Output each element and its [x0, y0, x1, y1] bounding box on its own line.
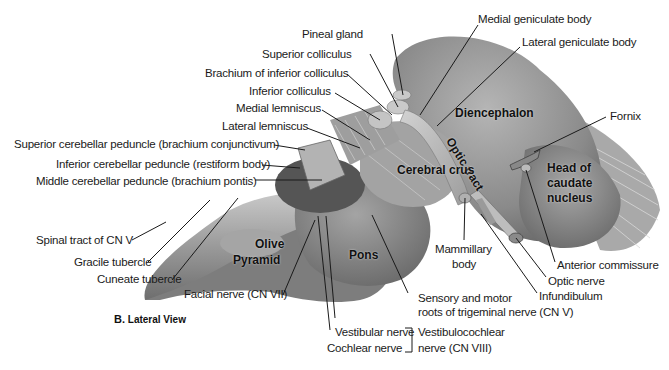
label-fornix: Fornix: [610, 110, 641, 123]
label-middle-cerebellar-peduncle: Middle cerebellar peduncle (brachium pon…: [36, 175, 257, 188]
label-vestibulocochlear-1: Vestibulocochlear: [418, 326, 505, 339]
label-cochlear-nerve: Cochlear nerve: [327, 342, 402, 355]
label-anterior-commissure: Anterior commissure: [557, 259, 659, 272]
label-olive: Olive: [255, 237, 284, 251]
label-gracile-tubercle: Gracile tubercle: [74, 256, 151, 269]
label-medial-geniculate-body: Medial geniculate body: [478, 13, 591, 26]
label-mammillary-2: body: [452, 258, 476, 271]
caption-letter: B.: [114, 313, 125, 325]
figure-caption: B. Lateral View: [114, 313, 186, 325]
label-lateral-geniculate-body: Lateral geniculate body: [522, 36, 636, 49]
label-head-of-caudate-2: caudate: [547, 176, 592, 190]
label-trigeminal-1: Sensory and motor: [418, 292, 512, 305]
label-infundibulum: Infundibulum: [539, 290, 602, 303]
label-superior-cerebellar-peduncle: Superior cerebellar peduncle (brachium c…: [14, 138, 279, 151]
brainstem-lateral-view-figure: Diencephalon Optic tract Cerebral crus H…: [0, 0, 669, 370]
label-facial-nerve: Facial nerve (CN VII): [184, 288, 287, 301]
label-head-of-caudate-3: nucleus: [547, 191, 592, 205]
label-vestibulocochlear-2: nerve (CN VIII): [418, 342, 492, 355]
label-brachium-inferior-colliculus: Brachium of inferior colliculus: [205, 67, 348, 80]
label-inferior-colliculus: Inferior colliculus: [249, 85, 331, 98]
label-pineal-gland: Pineal gland: [302, 28, 363, 41]
label-pyramid: Pyramid: [233, 253, 280, 267]
label-cuneate-tubercle: Cuneate tubercle: [97, 273, 181, 286]
label-diencephalon: Diencephalon: [455, 106, 534, 120]
label-superior-colliculus: Superior colliculus: [262, 48, 352, 61]
label-lateral-lemniscus: Lateral lemniscus: [222, 120, 308, 133]
caption-text: Lateral View: [128, 314, 186, 325]
label-optic-nerve: Optic nerve: [548, 275, 605, 288]
label-medial-lemniscus: Medial lemniscus: [236, 102, 321, 115]
label-mammillary-1: Mammillary: [435, 243, 492, 256]
label-trigeminal-2: roots of trigeminal nerve (CN V): [418, 306, 573, 319]
label-vestibular-nerve: Vestibular nerve: [335, 326, 414, 339]
label-inferior-cerebellar-peduncle: Inferior cerebellar peduncle (restiform …: [56, 158, 270, 171]
label-pons: Pons: [349, 248, 378, 262]
label-head-of-caudate-1: Head of: [547, 161, 591, 175]
label-spinal-tract-cn-v: Spinal tract of CN V: [36, 234, 133, 247]
label-cerebral-crus: Cerebral crus: [397, 163, 474, 177]
